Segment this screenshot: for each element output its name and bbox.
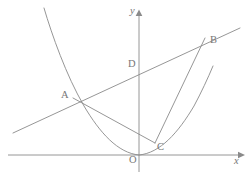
figure-canvas: A B C D O y x bbox=[0, 0, 250, 179]
segment-AC bbox=[73, 98, 155, 143]
origin-label: O bbox=[129, 155, 137, 166]
point-label-A: A bbox=[61, 90, 69, 101]
y-axis-label: y bbox=[130, 6, 135, 17]
point-label-C: C bbox=[157, 142, 164, 153]
x-axis-label: x bbox=[234, 156, 239, 167]
point-label-D: D bbox=[128, 59, 136, 70]
secant-line-AB bbox=[13, 28, 240, 133]
y-axis-arrowhead bbox=[136, 10, 143, 17]
point-label-B: B bbox=[210, 35, 217, 46]
parabola-curve bbox=[44, 8, 213, 155]
geometry-diagram bbox=[0, 0, 250, 179]
x-axis-arrowhead bbox=[238, 152, 245, 159]
